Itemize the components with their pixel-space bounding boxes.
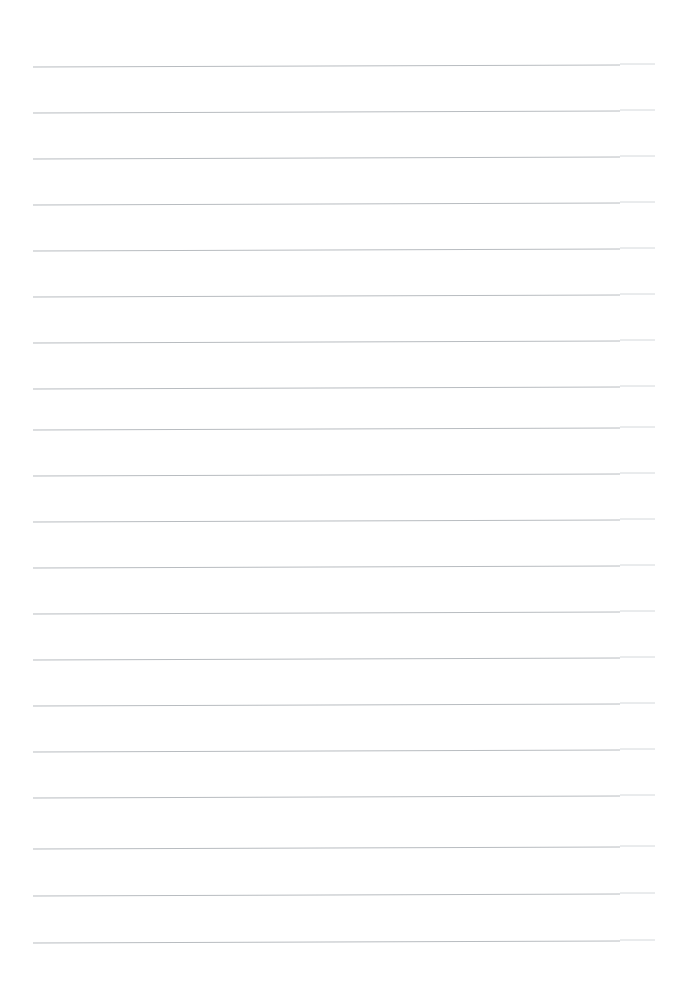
lined-paper-page [0, 0, 676, 985]
writing-area[interactable] [0, 0, 676, 985]
